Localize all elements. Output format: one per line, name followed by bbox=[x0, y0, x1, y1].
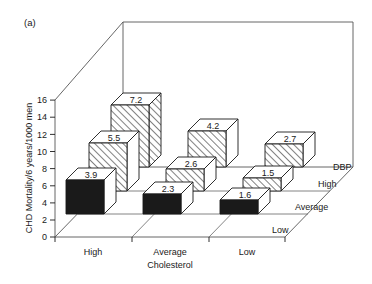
bar-value-label: 5.5 bbox=[108, 133, 121, 143]
depth-category-label-average: Average bbox=[295, 202, 328, 212]
bar-value-label: 4.2 bbox=[207, 121, 220, 131]
x-category-label-low: Low bbox=[239, 247, 256, 257]
chart-background bbox=[0, 0, 372, 284]
bar-front-face bbox=[265, 144, 303, 167]
bar-value-label: 2.3 bbox=[162, 184, 175, 194]
bar-value-label: 3.9 bbox=[85, 170, 98, 180]
depth-category-label-high: High bbox=[318, 179, 337, 189]
y-tick-label-2: 2 bbox=[42, 215, 47, 225]
panel-label: (a) bbox=[24, 17, 36, 28]
depth-category-label-low: Low bbox=[272, 225, 289, 235]
y-tick-label-12: 12 bbox=[37, 130, 47, 140]
y-tick-label-8: 8 bbox=[42, 164, 47, 174]
x-category-label-high: High bbox=[84, 247, 103, 257]
chart-figure: 16 14 12 10 8 6 4 2 0 7.2 bbox=[0, 0, 372, 284]
bar-front-face bbox=[66, 180, 104, 214]
y-tick-label-4: 4 bbox=[42, 198, 47, 208]
bar-value-label: 2.7 bbox=[284, 134, 297, 144]
y-tick-label-10: 10 bbox=[37, 147, 47, 157]
bar-front-face bbox=[143, 194, 181, 214]
y-tick-label-0: 0 bbox=[42, 232, 47, 242]
bar-value-label: 1.6 bbox=[239, 190, 252, 200]
bar-side-face bbox=[149, 93, 161, 167]
y-axis-title: CHD Mortality/6 years/1000 men bbox=[24, 103, 34, 234]
y-tick-label-16: 16 bbox=[37, 95, 47, 105]
x-axis-title: Cholesterol bbox=[147, 260, 193, 270]
y-tick-label-14: 14 bbox=[37, 112, 47, 122]
bar-chol-low-dbp-low: 1.6 bbox=[220, 188, 270, 214]
bar-value-label: 1.5 bbox=[262, 168, 275, 178]
bar-chol-low-dbp-high: 2.7 bbox=[265, 132, 315, 167]
bar-chol-high-dbp-low: 3.9 bbox=[66, 168, 116, 214]
y-tick-label-6: 6 bbox=[42, 181, 47, 191]
bar-chol-average-dbp-low: 2.3 bbox=[143, 182, 193, 214]
chd-mortality-3d-bar-chart: 16 14 12 10 8 6 4 2 0 7.2 bbox=[0, 0, 372, 284]
bar-front-face bbox=[220, 200, 258, 214]
bar-value-label: 7.2 bbox=[130, 95, 143, 105]
x-category-label-average: Average bbox=[153, 247, 186, 257]
depth-axis-title: DBP bbox=[333, 162, 352, 172]
bar-value-label: 2.6 bbox=[185, 159, 198, 169]
